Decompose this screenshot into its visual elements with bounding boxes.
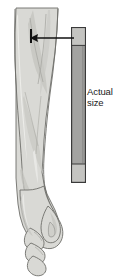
measurement-tick [30,29,32,43]
actual-size-bar [71,27,86,183]
leader-arrow [28,27,74,45]
anatomy-figure: Actual size [0,0,118,277]
actual-size-label-line1: Actual [87,87,118,98]
actual-size-label-line2: size [87,98,118,109]
actual-size-label: Actual size [87,87,118,108]
scale-bar-bottom-cap [72,164,85,182]
scale-bar-top-cap [72,28,85,45]
